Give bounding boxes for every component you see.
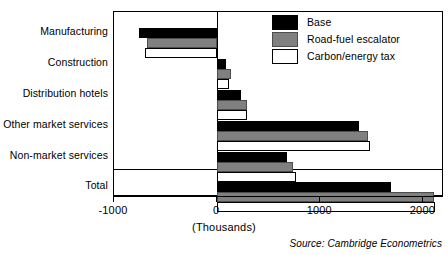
category-label-manufacturing: Manufacturing — [0, 26, 108, 37]
category-label-construction: Construction — [0, 57, 108, 68]
category-label-distribution-hotels: Distribution hotels — [0, 88, 108, 99]
category-label-non-market-services: Non-market services — [0, 150, 108, 161]
bar-construction-escalator — [217, 69, 231, 79]
bar-other-market-services-carbon — [217, 141, 370, 151]
bar-distribution-hotels-escalator — [217, 100, 247, 110]
legend-label-carbon-energy-tax: Carbon/energy tax — [307, 50, 395, 62]
x-tick-0 — [216, 197, 217, 202]
bar-chart: Manufacturing Construction Distribution … — [0, 0, 448, 255]
bar-manufacturing-carbon — [145, 48, 217, 58]
bar-other-market-services-escalator — [217, 131, 368, 141]
bar-other-market-services-base — [217, 121, 359, 131]
bar-construction-base — [217, 59, 226, 69]
legend-swatch-carbon-icon — [272, 49, 298, 64]
x-tick-1000 — [319, 197, 320, 202]
legend: Base Road-fuel escalator Carbon/energy t… — [272, 14, 437, 65]
category-axis-labels: Manufacturing Construction Distribution … — [0, 0, 108, 196]
bar-distribution-hotels-base — [217, 90, 241, 100]
x-tick-label-0: 0 — [213, 204, 219, 216]
x-tick-label-1000: 1000 — [307, 204, 332, 216]
bar-manufacturing-base — [139, 28, 217, 38]
bar-construction-carbon — [217, 79, 229, 89]
bar-non-market-services-carbon — [217, 172, 296, 182]
bar-non-market-services-escalator — [217, 162, 293, 172]
x-axis: -1000010002000 — [113, 196, 443, 197]
x-tick-2000 — [422, 197, 423, 202]
legend-item-carbon-energy-tax: Carbon/energy tax — [272, 48, 437, 64]
x-axis-title: (Thousands) — [0, 221, 448, 233]
legend-swatch-base-icon — [272, 15, 298, 30]
x-tick-label--1000: -1000 — [98, 204, 127, 216]
legend-item-base: Base — [272, 14, 437, 30]
category-label-total: Total — [0, 180, 108, 191]
source-note: Source: Cambridge Econometrics — [289, 238, 442, 249]
bar-non-market-services-base — [217, 152, 287, 162]
x-tick-label-2000: 2000 — [410, 204, 435, 216]
legend-label-road-fuel-escalator: Road-fuel escalator — [307, 33, 400, 45]
category-label-other-market-services: Other market services — [0, 119, 108, 130]
legend-item-road-fuel-escalator: Road-fuel escalator — [272, 31, 437, 47]
x-tick--1000 — [113, 197, 114, 202]
legend-label-base: Base — [307, 16, 331, 28]
legend-swatch-escalator-icon — [272, 32, 298, 47]
bar-distribution-hotels-carbon — [217, 110, 247, 120]
bar-total-base — [217, 182, 391, 192]
bar-manufacturing-escalator — [147, 38, 217, 48]
